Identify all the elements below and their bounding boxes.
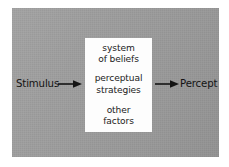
box-line: perceptual — [95, 73, 143, 84]
box-group-strategies: perceptual strategies — [95, 73, 143, 95]
percept-arrow-icon — [155, 79, 180, 89]
box-line: system — [98, 43, 139, 54]
stimulus-label: Stimulus — [16, 78, 59, 89]
box-line: factors — [103, 116, 134, 127]
percept-label: Percept — [180, 78, 217, 89]
box-line: strategies — [95, 85, 143, 96]
box-line: of beliefs — [98, 54, 139, 65]
processing-box: system of beliefs perceptual strategies … — [85, 38, 152, 132]
box-line: other — [103, 105, 134, 116]
box-group-factors: other factors — [103, 105, 134, 127]
stimulus-arrow-icon — [58, 79, 83, 89]
perception-diagram: Stimulus system of beliefs perceptual st… — [0, 0, 229, 167]
box-group-beliefs: system of beliefs — [98, 43, 139, 65]
